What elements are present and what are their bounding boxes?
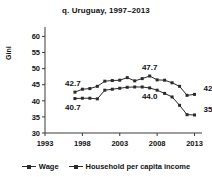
data-label: 40.7 bbox=[65, 103, 81, 112]
y-tick-label: 60 bbox=[32, 32, 40, 41]
x-tick-label: 2003 bbox=[111, 139, 128, 148]
data-label: 35.0 bbox=[204, 105, 212, 114]
series-wage bbox=[73, 85, 196, 116]
y-tick-label: 40 bbox=[32, 97, 40, 106]
y-tick-label: 50 bbox=[32, 64, 40, 73]
data-label: 42.7 bbox=[65, 79, 81, 88]
data-label: 44.0 bbox=[142, 92, 158, 101]
data-label: 42.0 bbox=[204, 84, 212, 93]
y-tick-label: 45 bbox=[32, 80, 40, 89]
gini-line-chart: q. Uruguay, 1997–2013 Gini 3035404550556… bbox=[0, 0, 212, 177]
y-tick-label: 30 bbox=[32, 129, 40, 138]
x-tick-label: 1998 bbox=[74, 139, 91, 148]
y-tick-label: 55 bbox=[32, 48, 40, 57]
legend-marker-household-per-capita-income bbox=[69, 163, 83, 170]
x-axis-ticks: 19931998200320082013 bbox=[37, 133, 203, 148]
plot-area: 30354045505560 19931998200320082013 42.7… bbox=[0, 0, 212, 177]
chart-legend: Wage Household per capita income bbox=[0, 162, 212, 171]
x-tick-label: 2013 bbox=[186, 139, 203, 148]
legend-item-wage[interactable]: Wage bbox=[22, 162, 59, 171]
y-axis-ticks: 30354045505560 bbox=[32, 32, 45, 138]
legend-marker-wage bbox=[22, 163, 36, 170]
data-label: 47.7 bbox=[142, 63, 158, 72]
legend-label-household-per-capita-income: Household per capita income bbox=[86, 162, 191, 171]
y-tick-label: 35 bbox=[32, 113, 40, 122]
legend-item-household-per-capita-income[interactable]: Household per capita income bbox=[69, 162, 191, 171]
legend-label-wage: Wage bbox=[39, 162, 59, 171]
data-series-group bbox=[73, 75, 196, 117]
x-tick-label: 2008 bbox=[149, 139, 166, 148]
x-tick-label: 1993 bbox=[37, 139, 54, 148]
